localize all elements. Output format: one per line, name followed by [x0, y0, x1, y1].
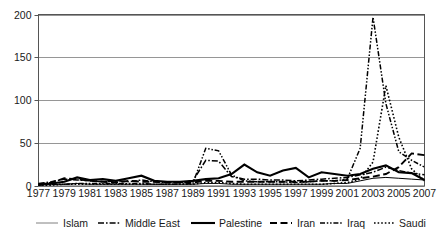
- chart-legend: IslamMiddle EastPalestineIranIraqSaudi: [36, 217, 426, 229]
- y-axis-tick-labels: 050100150200: [14, 9, 32, 192]
- x-tick-label: 2003: [361, 187, 385, 199]
- chart-canvas: 050100150200 197719791981198319851987198…: [0, 0, 441, 244]
- series-line-iraq: [39, 17, 425, 185]
- x-axis-tick-labels: 1977197919811983198519871989199119931995…: [27, 187, 437, 199]
- data-series-group: [39, 17, 425, 185]
- legend-label-iraq[interactable]: Iraq: [347, 217, 365, 229]
- line-chart: 050100150200 197719791981198319851987198…: [0, 0, 441, 244]
- x-tick-label: 1983: [104, 187, 128, 199]
- x-tick-label: 1991: [207, 187, 231, 199]
- y-tick-label: 200: [14, 9, 32, 21]
- x-tick-label: 2001: [336, 187, 360, 199]
- legend-label-saudi[interactable]: Saudi: [399, 217, 426, 229]
- x-tick-label: 2007: [413, 187, 437, 199]
- legend-label-middle-east[interactable]: Middle East: [125, 217, 180, 229]
- plot-gridlines: [39, 16, 425, 187]
- x-tick-label: 1993: [233, 187, 257, 199]
- x-tick-label: 1999: [310, 187, 334, 199]
- legend-label-islam[interactable]: Islam: [63, 217, 88, 229]
- x-tick-label: 1981: [78, 187, 102, 199]
- x-tick-label: 1979: [53, 187, 77, 199]
- x-tick-label: 1985: [130, 187, 154, 199]
- x-tick-label: 1977: [27, 187, 51, 199]
- x-tick-label: 1989: [181, 187, 205, 199]
- x-tick-label: 2005: [387, 187, 411, 199]
- x-tick-label: 1995: [258, 187, 282, 199]
- legend-label-iran[interactable]: Iran: [297, 217, 315, 229]
- y-tick-label: 50: [20, 137, 32, 149]
- y-tick-label: 100: [14, 94, 32, 106]
- y-axis-ticks: [35, 16, 39, 187]
- x-tick-label: 1987: [155, 187, 179, 199]
- x-tick-label: 1997: [284, 187, 308, 199]
- y-tick-label: 150: [14, 51, 32, 63]
- legend-label-palestine[interactable]: Palestine: [219, 217, 262, 229]
